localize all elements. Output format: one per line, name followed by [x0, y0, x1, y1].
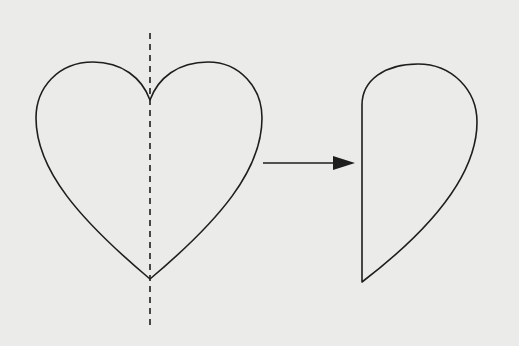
heart-shape	[36, 62, 262, 279]
diagram-canvas	[0, 0, 519, 346]
half-heart-shape	[362, 64, 477, 282]
arrow-icon	[263, 156, 355, 170]
